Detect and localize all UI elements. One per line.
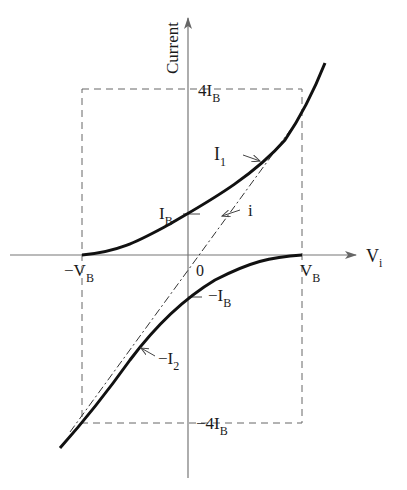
tick-label-right: VB xyxy=(300,261,320,285)
tick-label-ib: IB xyxy=(159,204,173,228)
y-axis-label: Current xyxy=(163,22,182,74)
curve-label-i1: I1 xyxy=(214,144,226,169)
current-i-line xyxy=(70,114,302,432)
x-axis-label: Vi xyxy=(366,246,383,270)
tick-label-bottom: −4IB xyxy=(196,414,228,438)
curve-label-i: i xyxy=(248,201,253,220)
curve-neg-i2 xyxy=(60,255,302,448)
tick-label-top: 4IB xyxy=(198,81,220,105)
origin-label: 0 xyxy=(196,262,204,279)
current-voltage-diagram: Current Vi 0 4IB −4IB −VB VB IB −IB I1 i… xyxy=(0,0,407,490)
tick-label-neg-ib: −IB xyxy=(208,286,231,310)
tick-label-left: −VB xyxy=(64,261,94,285)
curve-label-neg-i2: −I2 xyxy=(158,349,179,373)
bounds-dashed-box xyxy=(82,89,302,423)
i1-pointer-arrow xyxy=(243,155,260,161)
neg-i2-pointer-arrow xyxy=(141,348,155,356)
